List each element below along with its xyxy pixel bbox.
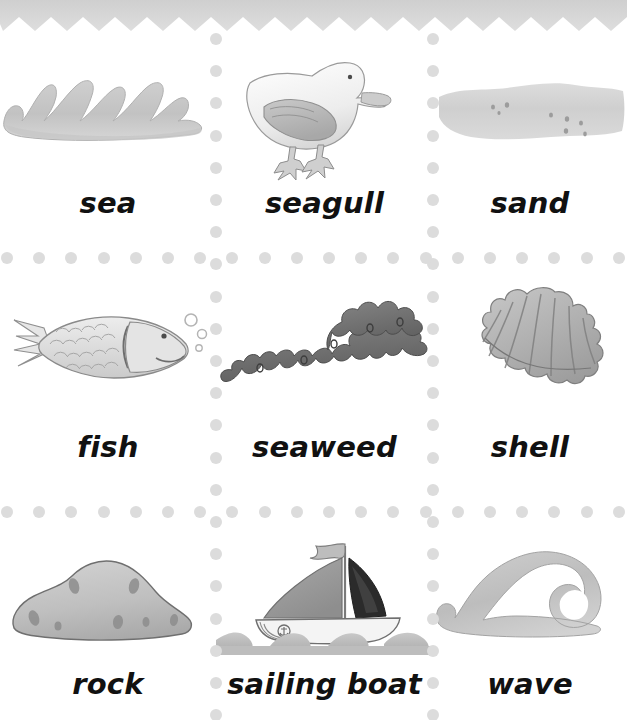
- separator-dot: [427, 226, 439, 238]
- vertical-dot-separator-2: [427, 31, 439, 720]
- separator-dot: [452, 252, 464, 264]
- cell-seagull-label: seagull: [216, 186, 433, 220]
- seaweed-frond-icon: [216, 288, 433, 408]
- separator-dot: [427, 645, 439, 657]
- separator-dot: [427, 291, 439, 303]
- separator-dot: [210, 548, 222, 560]
- separator-dot: [613, 252, 625, 264]
- separator-dot: [210, 387, 222, 399]
- fish-icon: [0, 296, 216, 406]
- separator-dot: [427, 323, 439, 335]
- torn-paper-edge: [0, 0, 627, 31]
- separator-dot: [210, 452, 222, 464]
- separator-dot: [516, 252, 528, 264]
- separator-dot: [210, 645, 222, 657]
- separator-dot: [427, 709, 439, 720]
- separator-dot: [226, 252, 238, 264]
- separator-dot: [427, 65, 439, 77]
- separator-dot: [420, 506, 432, 518]
- separator-dot: [420, 252, 432, 264]
- separator-dot: [427, 355, 439, 367]
- cell-sand-label: sand: [433, 186, 627, 220]
- cell-rock-label: rock: [0, 667, 216, 701]
- separator-dot: [210, 355, 222, 367]
- separator-dot: [210, 97, 222, 109]
- separator-dot: [484, 252, 496, 264]
- separator-dot: [427, 194, 439, 206]
- separator-dot: [98, 252, 110, 264]
- cell-sand[interactable]: sand: [433, 31, 627, 258]
- separator-dot: [581, 506, 593, 518]
- separator-dot: [33, 506, 45, 518]
- cell-sea[interactable]: sea: [0, 31, 216, 258]
- cell-wave[interactable]: wave: [433, 512, 627, 720]
- separator-dot: [226, 506, 238, 518]
- separator-dot: [291, 252, 303, 264]
- horizontal-dot-separator-2: [0, 506, 627, 518]
- cell-shell[interactable]: shell: [433, 258, 627, 512]
- sailing-boat-icon: [216, 530, 433, 655]
- separator-dot: [613, 506, 625, 518]
- cell-rock[interactable]: rock: [0, 512, 216, 720]
- separator-dot: [210, 709, 222, 720]
- separator-dot: [355, 252, 367, 264]
- separator-dot: [162, 252, 174, 264]
- separator-dot: [259, 506, 271, 518]
- separator-dot: [65, 506, 77, 518]
- separator-dot: [581, 252, 593, 264]
- separator-dot: [548, 506, 560, 518]
- cell-fish[interactable]: fish: [0, 258, 216, 512]
- separator-dot: [194, 506, 206, 518]
- separator-dot: [427, 33, 439, 45]
- separator-dot: [210, 162, 222, 174]
- separator-dot: [452, 506, 464, 518]
- separator-dot: [130, 506, 142, 518]
- separator-dot: [323, 252, 335, 264]
- separator-dot: [210, 419, 222, 431]
- separator-dot: [291, 506, 303, 518]
- separator-dot: [210, 484, 222, 496]
- separator-dot: [484, 506, 496, 518]
- separator-dot: [98, 506, 110, 518]
- separator-dot: [427, 162, 439, 174]
- cell-fish-label: fish: [0, 430, 216, 464]
- cell-shell-label: shell: [433, 430, 627, 464]
- separator-dot: [210, 194, 222, 206]
- separator-dot: [427, 548, 439, 560]
- cell-seaweed-label: seaweed: [216, 430, 433, 464]
- seagull-bird-icon: [216, 49, 433, 184]
- separator-dot: [210, 226, 222, 238]
- separator-dot: [427, 97, 439, 109]
- cell-sailing-boat-label: sailing boat: [216, 667, 433, 701]
- separator-dot: [65, 252, 77, 264]
- picture-word-card-page: sea: [0, 0, 627, 720]
- separator-dot: [548, 252, 560, 264]
- sand-patch-icon: [433, 69, 627, 164]
- cell-wave-label: wave: [433, 667, 627, 701]
- separator-dot: [210, 130, 222, 142]
- separator-dot: [427, 677, 439, 689]
- separator-dot: [516, 506, 528, 518]
- separator-dot: [427, 613, 439, 625]
- separator-dot: [427, 130, 439, 142]
- ocean-waves-icon: [0, 63, 216, 173]
- separator-dot: [1, 252, 13, 264]
- cell-seaweed[interactable]: seaweed: [216, 258, 433, 512]
- separator-dot: [427, 580, 439, 592]
- separator-dot: [162, 506, 174, 518]
- separator-dot: [210, 677, 222, 689]
- separator-dot: [210, 65, 222, 77]
- separator-dot: [210, 323, 222, 335]
- separator-dot: [427, 452, 439, 464]
- separator-dot: [210, 580, 222, 592]
- cell-seagull[interactable]: seagull: [216, 31, 433, 258]
- curling-wave-icon: [433, 540, 627, 650]
- separator-dot: [194, 252, 206, 264]
- separator-dot: [33, 252, 45, 264]
- cell-sailing-boat[interactable]: sailing boat: [216, 512, 433, 720]
- rock-boulder-icon: [0, 542, 216, 652]
- separator-dot: [355, 506, 367, 518]
- separator-dot: [210, 33, 222, 45]
- separator-dot: [210, 291, 222, 303]
- vertical-dot-separator-1: [210, 31, 222, 720]
